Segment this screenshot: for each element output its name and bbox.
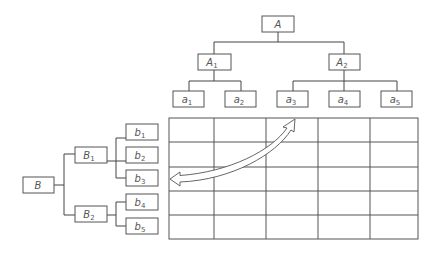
svg-text:B: B: [35, 180, 42, 191]
node-b5: b5: [126, 218, 158, 234]
node-B: B: [23, 177, 54, 193]
node-A1: A1: [198, 54, 231, 70]
svg-text:A: A: [274, 19, 282, 30]
node-A: A: [262, 16, 294, 32]
hierarchy-matrix-diagram: A A1 A2 a1 a2 a3 a4 a5: [0, 0, 439, 256]
node-A2: A2: [329, 54, 360, 70]
node-a3: a3: [277, 91, 308, 107]
node-a4: a4: [329, 91, 360, 107]
node-B2: B2: [75, 206, 107, 222]
node-b4: b4: [126, 194, 158, 210]
node-B1: B1: [75, 147, 107, 163]
node-b3: b3: [126, 170, 158, 186]
node-b2: b2: [126, 147, 158, 163]
double-arrow-icon: [170, 119, 295, 186]
node-b1: b1: [126, 124, 158, 140]
left-tree: B B1 B2 b1 b2 b3 b4 b5: [23, 124, 158, 234]
node-a2: a2: [225, 91, 256, 107]
node-a5: a5: [381, 91, 412, 107]
node-a1: a1: [173, 91, 204, 107]
top-tree: A A1 A2 a1 a2 a3 a4 a5: [173, 16, 412, 107]
